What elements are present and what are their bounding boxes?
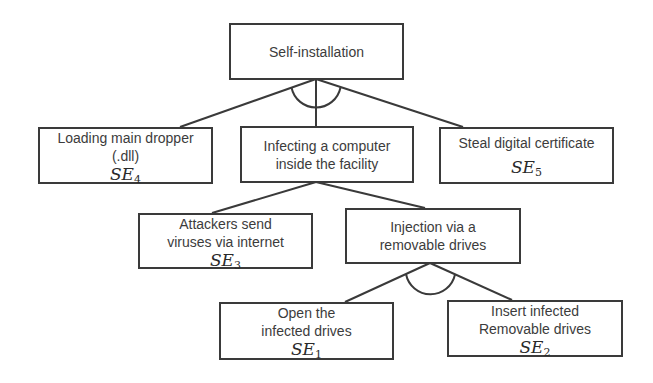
node-label: Open the infected drives (261, 304, 351, 340)
attack-tree-diagram: Self-installation Loading main dropper (… (0, 0, 653, 383)
se-label: SE4 (110, 165, 141, 189)
node-open-infected-drives: Open the infected drives SE1 (219, 302, 394, 360)
se-label: SE2 (519, 338, 550, 362)
edge-root-to-steal (316, 79, 463, 127)
se-label: SE3 (210, 251, 241, 275)
node-loading-main-dropper: Loading main dropper (.dll) SE4 (38, 127, 213, 184)
edge-injection-to-insert (430, 263, 512, 300)
node-insert-infected-drives: Insert infected Removable drives SE2 (447, 300, 623, 357)
edge-infecting-to-injection (316, 182, 425, 208)
edge-root-to-loading (180, 79, 316, 127)
node-injection-removable-drives: Injection via a removable drives (345, 208, 521, 264)
se-label: SE5 (511, 158, 542, 182)
node-label: Steal digital certificate (458, 134, 594, 152)
node-attackers-send-viruses: Attackers send viruses via internet SE3 (138, 213, 313, 269)
node-steal-certificate: Steal digital certificate SE5 (439, 127, 614, 184)
node-label: Infecting a computer inside the facility (264, 137, 391, 173)
and-gate-arc-injection (406, 274, 455, 294)
node-label: Loading main dropper (.dll) (57, 129, 193, 165)
node-infecting-computer: Infecting a computer inside the facility (240, 126, 414, 183)
node-label: Attackers send viruses via internet (167, 215, 284, 251)
node-self-installation: Self-installation (229, 23, 404, 80)
edge-infecting-to-attackers (212, 182, 316, 213)
edge-injection-to-open (345, 263, 430, 302)
node-label: Injection via a removable drives (380, 218, 487, 254)
se-label: SE1 (291, 340, 322, 364)
node-label: Self-installation (269, 43, 364, 61)
node-label: Insert infected Removable drives (479, 302, 591, 338)
